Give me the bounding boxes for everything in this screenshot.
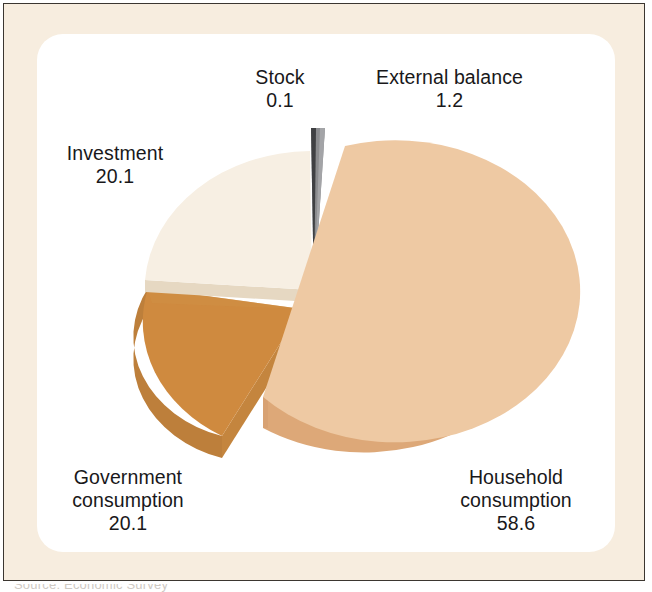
pie-label-government-consumption-name: Government: [28, 466, 228, 489]
pie-chart: Stock 0.1 External balance 1.2 Investmen…: [0, 0, 652, 592]
pie-label-household-consumption-name2: consumption: [416, 489, 616, 512]
pie-label-investment: Investment 20.1: [30, 142, 200, 188]
caption-strip: Source: Economic Survey: [0, 584, 652, 592]
pie-label-household-consumption: Household consumption 58.6: [416, 466, 616, 535]
pie-label-investment-value: 20.1: [30, 165, 200, 188]
pie-label-stock-value: 0.1: [225, 89, 335, 112]
pie-label-government-consumption: Government consumption 20.1: [28, 466, 228, 535]
pie-label-government-consumption-value: 20.1: [28, 512, 228, 535]
pie-label-household-consumption-value: 58.6: [416, 512, 616, 535]
pie-label-external-balance-value: 1.2: [337, 89, 562, 112]
pie-slice-household-consumption[interactable]: [263, 140, 580, 452]
pie-label-external-balance-name: External balance: [337, 66, 562, 89]
pie-label-stock: Stock 0.1: [225, 66, 335, 112]
caption-ghost-text: Source: Economic Survey: [14, 584, 168, 592]
pie-label-household-consumption-name: Household: [416, 466, 616, 489]
pie-label-stock-name: Stock: [225, 66, 335, 89]
pie-label-investment-name: Investment: [30, 142, 200, 165]
pie-label-external-balance: External balance 1.2: [337, 66, 562, 112]
pie-label-government-consumption-name2: consumption: [28, 489, 228, 512]
